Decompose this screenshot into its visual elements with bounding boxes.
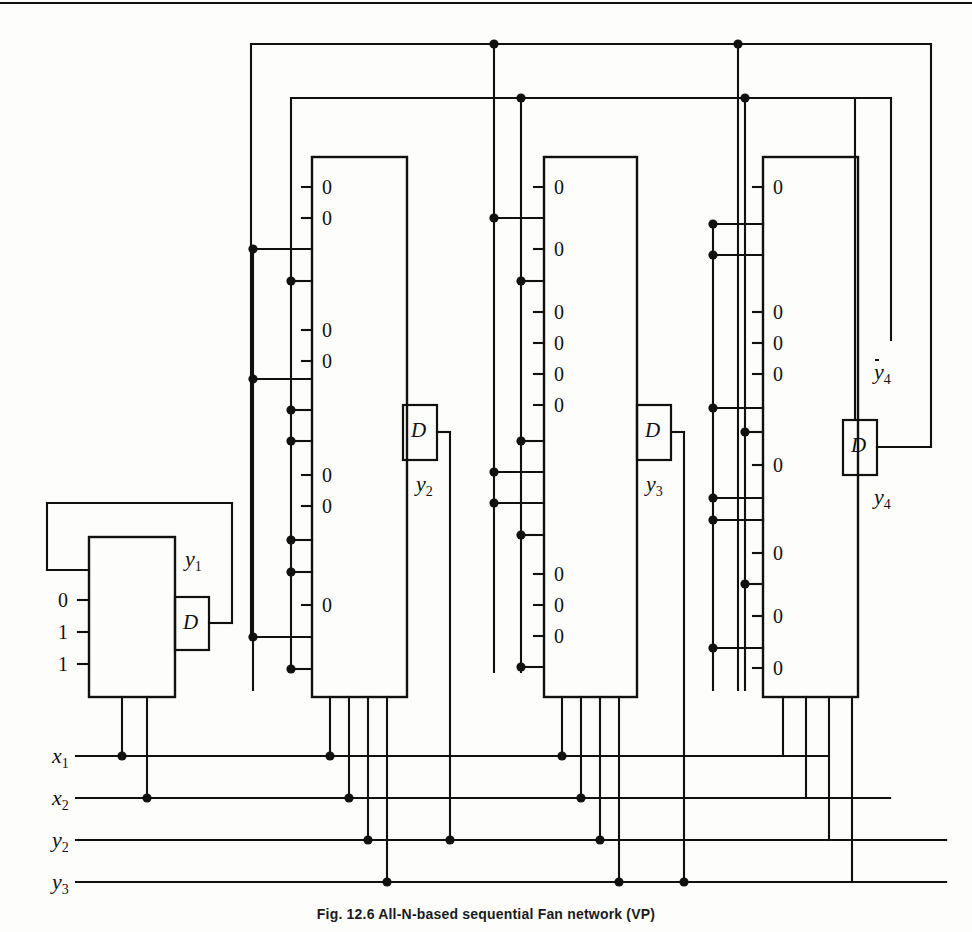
block-4-ybar-sub: 4 <box>884 372 891 387</box>
bus-label-y3-base: y <box>52 869 62 894</box>
block-4-input-3: 0 <box>773 302 783 322</box>
block-4-ff-label: D <box>851 435 866 456</box>
block-4-inverted-output-label: y4 <box>874 361 891 387</box>
block-2-input-10: 0 <box>322 496 332 516</box>
bus-label-y2: y2 <box>52 829 69 855</box>
junction-dots <box>117 39 749 886</box>
block-1-input-stubs <box>78 600 89 664</box>
block-2-output-sub: 2 <box>426 484 433 499</box>
block-2-input-9: 0 <box>322 465 332 485</box>
figure-caption-text: All-N-based sequential Fan network (VP) <box>378 906 655 922</box>
top-bus-outer-wire <box>251 44 931 640</box>
block-1-body <box>89 537 175 697</box>
bus-label-y2-sub: 2 <box>62 840 69 855</box>
block-2-input-0: 0 <box>322 177 332 197</box>
figure-root: 0 1 1 D y1 0 0 0 0 0 0 0 D y2 0 0 0 0 0 … <box>0 0 972 932</box>
block-1-input-1: 1 <box>58 622 68 642</box>
block-3-input-5: 0 <box>554 333 564 353</box>
block-3-ff-output-wire <box>671 432 684 882</box>
block-1-feedback-wire <box>47 503 232 623</box>
circuit-diagram <box>0 0 972 932</box>
block-2-input-4: 0 <box>322 320 332 340</box>
block-4-output-label: y4 <box>874 486 891 512</box>
block-4-const-stubs <box>753 187 763 668</box>
block-4-input-0: 0 <box>773 177 783 197</box>
block-2-input-5: 0 <box>322 351 332 371</box>
top-bus-inner-wire <box>291 98 891 672</box>
figure-caption-number: Fig. 12.6 <box>317 906 375 922</box>
block-2-output-label: y2 <box>416 473 433 499</box>
block-4-input-8: 0 <box>773 455 783 475</box>
block-4-output-sub: 4 <box>884 497 891 512</box>
block-4-bottom-outputs <box>783 697 946 882</box>
block-4-input-5: 0 <box>773 364 783 384</box>
block-1-output-base: y <box>185 546 195 571</box>
feeder-verticals <box>253 224 713 690</box>
block-2-body <box>312 157 407 697</box>
block-3-input-6: 0 <box>554 364 564 384</box>
bus-label-x2-base: x <box>52 785 62 810</box>
block-3-input-7: 0 <box>554 395 564 415</box>
block-4-ybar-base: y <box>874 359 884 384</box>
block-2-input-1: 0 <box>322 208 332 228</box>
bus-label-x1-base: x <box>52 743 62 768</box>
block-1-bottom-outputs <box>122 697 147 798</box>
bus-label-x1-sub: 1 <box>62 756 69 771</box>
block-1-ff-label: D <box>183 612 198 633</box>
bus-label-y3: y3 <box>52 871 69 897</box>
block-3-output-label: y3 <box>646 473 663 499</box>
block-3-output-base: y <box>646 471 656 496</box>
block-3-input-13: 0 <box>554 595 564 615</box>
block-2-output-base: y <box>416 471 426 496</box>
block-1-output-sub: 1 <box>195 559 202 574</box>
overbar <box>875 359 879 361</box>
bus-label-x2: x2 <box>52 787 69 813</box>
block-1-input-0: 0 <box>58 590 68 610</box>
block-2-bottom-outputs <box>330 697 387 882</box>
block-2-input-13: 0 <box>322 595 332 615</box>
block-1-output-label: y1 <box>185 548 202 574</box>
block-3-input-2: 0 <box>554 239 564 259</box>
block-3-const-stubs <box>534 187 544 636</box>
block-3-ff-label: D <box>645 420 660 441</box>
block-3-input-12: 0 <box>554 564 564 584</box>
block-2-ff-label: D <box>411 420 426 441</box>
block-3-output-sub: 3 <box>656 484 663 499</box>
block-2-ff-output-wire <box>437 432 450 840</box>
block-4-output-base: y <box>874 484 884 509</box>
figure-caption: Fig. 12.6 All-N-based sequential Fan net… <box>0 906 972 922</box>
block-3-bottom-outputs <box>562 697 619 882</box>
block-3-input-4: 0 <box>554 302 564 322</box>
block-1-input-2: 1 <box>58 654 68 674</box>
block-4-input-13: 0 <box>773 606 783 626</box>
block-4-input-4: 0 <box>773 333 783 353</box>
bus-label-y2-base: y <box>52 827 62 852</box>
block-3-input-14: 0 <box>554 626 564 646</box>
block-4-input-11: 0 <box>773 543 783 563</box>
bus-label-x1: x1 <box>52 745 69 771</box>
bus-label-y3-sub: 3 <box>62 882 69 897</box>
bus-label-x2-sub: 2 <box>62 798 69 813</box>
top-bus-droppers <box>494 44 745 690</box>
block-3-input-0: 0 <box>554 177 564 197</box>
block-4-input-15: 0 <box>773 658 783 678</box>
